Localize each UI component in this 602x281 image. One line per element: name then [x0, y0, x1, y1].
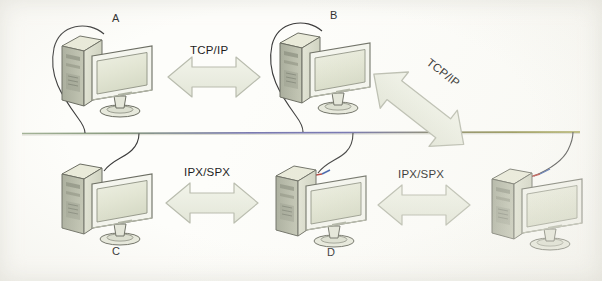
computer-node-d[interactable]: [276, 166, 366, 247]
computer-node-e[interactable]: [492, 169, 582, 250]
node-label-c: C: [112, 245, 120, 257]
diagram-canvas: [0, 0, 602, 281]
node-label-a: A: [112, 12, 120, 24]
arrow-ipx-spx-d-e: [378, 185, 470, 225]
arrow-tcp-ip-a-b: [168, 57, 260, 97]
cable-node-c: [104, 134, 139, 172]
cable-node-e: [526, 132, 573, 178]
network-diagram: A B C D TCP/IP TCP/IP IPX/SPX IPX/SPX: [0, 0, 602, 281]
node-label-d: D: [327, 246, 335, 258]
arrow-ipx-spx-c-d: [166, 183, 258, 223]
computer-node-c[interactable]: [62, 164, 152, 245]
protocol-label-ipx-spx-d-e: IPX/SPX: [398, 168, 444, 180]
protocol-label-ipx-spx-c-d: IPX/SPX: [184, 166, 230, 178]
computer-node-a[interactable]: [62, 36, 152, 117]
arrow-tcp-ip-b-e: [360, 56, 478, 162]
protocol-label-tcp-ip-a-b: TCP/IP: [190, 44, 228, 56]
node-label-b: B: [330, 9, 338, 21]
computer-node-b[interactable]: [280, 33, 370, 114]
network-backbone: [22, 132, 580, 135]
